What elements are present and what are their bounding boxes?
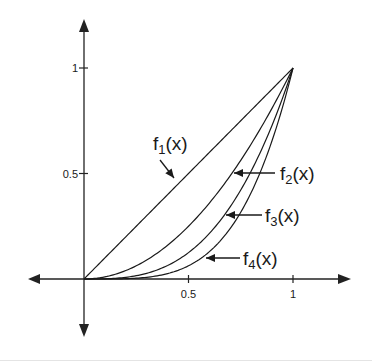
x-axis-left-arrow-icon xyxy=(28,274,40,284)
x-axis-right-arrow-icon xyxy=(338,274,351,284)
curve-label: f1(x) xyxy=(153,133,188,157)
label-arrowhead-icon xyxy=(206,254,215,262)
y-axis-down-arrow-icon xyxy=(79,324,89,337)
y-axis-up-arrow-icon xyxy=(79,19,89,32)
curve-label: f4(x) xyxy=(243,248,278,272)
label-arrowhead-icon xyxy=(226,211,235,219)
y-tick-label: 0.5 xyxy=(63,168,78,180)
chart: 0.510.51 f1(x)f2(x)f3(x)f4(x) xyxy=(0,0,372,364)
label-arrowhead-icon xyxy=(165,168,174,178)
y-tick-label: 1 xyxy=(72,62,78,74)
x-tick-label: 1 xyxy=(290,288,296,300)
curve-label: f2(x) xyxy=(280,163,315,187)
x-tick-label: 0.5 xyxy=(181,288,196,300)
label-arrowhead-icon xyxy=(234,169,243,177)
bottom-rule xyxy=(0,360,372,361)
curve-labels: f1(x)f2(x)f3(x)f4(x) xyxy=(153,133,315,272)
curve-label: f3(x) xyxy=(265,205,300,229)
